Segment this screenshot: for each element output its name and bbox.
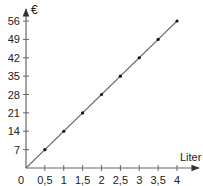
data-point [43,148,46,151]
y-tick-label: 42 [8,52,20,64]
x-tick-label: 4 [174,174,180,186]
y-axis-label: € [31,3,38,17]
data-point [138,56,141,59]
x-axis: 0,511,522,533,54 Liter 0 [18,151,202,186]
x-tick-label: 1 [61,174,67,186]
x-tick-label: 1,5 [75,174,90,186]
x-tick-label: 3,5 [150,174,165,186]
data-point [157,38,160,41]
y-tick-label: 35 [8,70,20,82]
x-tick-label: 2 [98,174,104,186]
data-point [175,19,178,22]
y-tick-label: 28 [8,89,20,101]
y-tick-label: 14 [8,125,20,137]
x-tick-label: 2,5 [113,174,128,186]
line-chart: 714212835424956 € 0,511,522,533,54 Liter… [0,0,203,186]
data-point [100,93,103,96]
data-point [119,75,122,78]
y-tick-label: 56 [8,15,20,27]
x-axis-label: Liter [180,151,202,163]
data-point [62,130,65,133]
y-tick-label: 7 [14,144,20,156]
data-point [81,111,84,114]
y-tick-label: 49 [8,33,20,45]
x-tick-label: 3 [136,174,142,186]
x-tick-label: 0,5 [37,174,52,186]
y-tick-label: 21 [8,107,20,119]
y-axis: 714212835424956 € [8,3,38,168]
origin-label: 0 [18,174,24,186]
data-series [26,19,179,168]
